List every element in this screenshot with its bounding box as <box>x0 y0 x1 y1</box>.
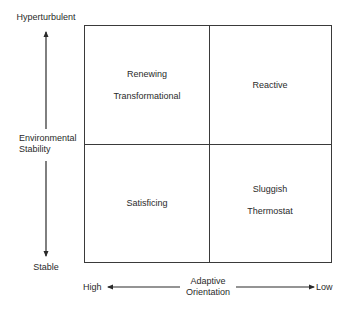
quadrant-bottom-right: Sluggish Thermostat <box>209 145 331 261</box>
quadrant-bottom-left: Satisficing <box>85 145 209 261</box>
y-axis-top-label: Hyperturbulent <box>16 12 76 23</box>
quadrant-bottom-right-line1: Sluggish <box>247 184 293 195</box>
x-axis-title: Adaptive Orientation <box>180 276 236 298</box>
y-axis-title: Environmental Stability <box>19 133 77 155</box>
quadrant-bottom-left-line1: Satisficing <box>126 198 167 209</box>
y-axis-title-line2: Stability <box>19 144 77 155</box>
x-axis-title-line1: Adaptive <box>180 276 236 287</box>
x-axis-left-label: High <box>83 282 102 293</box>
quadrant-top-left: Renewing Transformational <box>85 26 209 144</box>
quadrant-bottom-right-line2: Thermostat <box>247 206 293 217</box>
x-axis-title-line2: Orientation <box>180 287 236 298</box>
matrix-grid: Renewing Transformational Reactive Satis… <box>84 25 332 263</box>
quadrant-top-left-line1: Renewing <box>113 69 180 80</box>
quadrant-top-right: Reactive <box>209 26 331 144</box>
y-axis-bottom-label: Stable <box>26 262 66 273</box>
quadrant-top-right-line1: Reactive <box>252 80 287 91</box>
quadrant-top-left-line2: Transformational <box>113 91 180 102</box>
y-axis-title-line1: Environmental <box>19 133 77 144</box>
x-axis-right-label: Low <box>316 282 333 293</box>
